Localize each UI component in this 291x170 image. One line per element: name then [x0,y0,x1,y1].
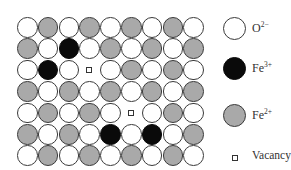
oxide-ion-icon [59,103,80,124]
oxide-ion-icon [163,124,184,145]
square-icon [232,155,238,161]
oxide-ion-icon [100,145,121,166]
oxide-ion-icon [79,124,100,145]
lattice-site [79,17,100,38]
ferrous-ion-icon [183,38,204,59]
lattice-site [183,60,204,81]
oxide-ion-icon [17,145,38,166]
lattice-site [38,103,59,124]
oxide-ion-icon [38,38,59,59]
black-circle-icon [223,57,246,80]
lattice-site [121,38,142,59]
lattice-site [59,145,80,166]
ferric-ion-icon [59,38,80,59]
ferrous-ion-icon [17,81,38,102]
vacancy-square-icon [128,110,134,116]
ferrous-ion-icon [121,60,142,81]
lattice-site [163,124,184,145]
ferrous-ion-icon [17,124,38,145]
ferrous-ion-icon [121,145,142,166]
oxide-ion-icon [79,38,100,59]
ferrous-ion-icon [79,17,100,38]
oxide-ion-icon [183,145,204,166]
lattice-site [183,103,204,124]
legend-label-fe2: Fe2+ [252,107,272,123]
oxide-ion-icon [121,81,142,102]
ferric-ion-icon [100,124,121,145]
ferrous-ion-icon [79,103,100,124]
oxide-ion-icon [59,60,80,81]
lattice-site [100,103,121,124]
lattice-site [163,81,184,102]
oxide-ion-icon [142,103,163,124]
lattice-site [38,60,59,81]
lattice-site [121,124,142,145]
lattice-site [59,103,80,124]
lattice-site [59,81,80,102]
lattice-site [183,124,204,145]
oxide-ion-icon [142,60,163,81]
lattice-site [100,124,121,145]
lattice-site [17,145,38,166]
ferrous-ion-icon [183,81,204,102]
oxide-ion-icon [183,17,204,38]
oxide-ion-icon [163,38,184,59]
lattice-site [38,38,59,59]
lattice-site [163,17,184,38]
oxide-ion-icon [121,38,142,59]
lattice-site [79,145,100,166]
oxide-ion-icon [38,81,59,102]
oxide-ion-icon [17,103,38,124]
lattice-site [79,81,100,102]
lattice-site [100,60,121,81]
white-circle-icon [223,17,246,40]
lattice-site [79,38,100,59]
crystal-lattice [17,17,204,167]
lattice-site [100,81,121,102]
lattice-site [100,17,121,38]
lattice-site [183,145,204,166]
lattice-site [38,81,59,102]
lattice-site [100,38,121,59]
ferrous-ion-icon [163,60,184,81]
oxide-ion-icon [38,124,59,145]
ferrous-ion-icon [163,103,184,124]
lattice-site [17,60,38,81]
gray-circle-icon [223,104,246,127]
lattice-site [183,81,204,102]
oxide-ion-icon [142,145,163,166]
lattice-site [79,103,100,124]
oxide-ion-icon [59,145,80,166]
lattice-site [142,38,163,59]
lattice-site [59,60,80,81]
oxide-ion-icon [163,81,184,102]
oxide-ion-icon [121,124,142,145]
oxide-ion-icon [79,81,100,102]
legend-label-oxide: O2− [252,20,269,36]
ferrous-ion-icon [59,81,80,102]
lattice-site [59,124,80,145]
lattice-site [142,103,163,124]
lattice-site [142,124,163,145]
ferrous-ion-icon [142,38,163,59]
legend-label-fe3: Fe3+ [252,60,272,76]
ferrous-ion-icon [163,17,184,38]
lattice-site [79,124,100,145]
oxide-ion-icon [142,17,163,38]
ferrous-ion-icon [79,145,100,166]
oxide-ion-icon [17,60,38,81]
oxide-ion-icon [59,17,80,38]
lattice-site [142,145,163,166]
ferrous-ion-icon [183,124,204,145]
lattice-vacancy [79,60,100,81]
lattice-site [183,17,204,38]
ferric-ion-icon [142,124,163,145]
oxide-ion-icon [183,103,204,124]
ferrous-ion-icon [17,38,38,59]
lattice-site [142,81,163,102]
oxide-ion-icon [17,17,38,38]
lattice-site [142,17,163,38]
lattice-site [38,145,59,166]
ferrous-ion-icon [59,124,80,145]
ferrous-ion-icon [38,17,59,38]
